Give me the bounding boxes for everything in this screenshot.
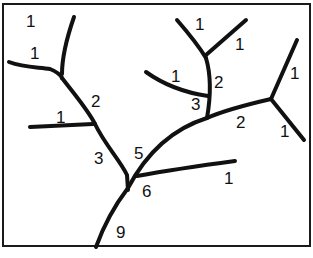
stream-order-label: 1 [224,169,233,188]
stream-order-label: 2 [236,113,245,132]
stream-order-label: 1 [26,12,35,31]
stream-order-label: 1 [280,122,289,141]
stream-order-label: 3 [94,149,103,168]
stream-order-label: 2 [91,92,100,111]
stream-order-label: 1 [235,35,244,54]
stream-order-label: 2 [214,73,223,92]
stream-order-label: 1 [290,64,299,83]
stream-segment [206,58,210,118]
stream-order-label: 9 [116,223,125,242]
stream-order-label: 5 [134,144,143,163]
stream-order-label: 6 [142,182,151,201]
stream-segment [137,161,235,176]
stream-order-label: 1 [56,108,65,127]
stream-order-label: 1 [171,67,180,86]
stream-order-label: 1 [195,15,204,34]
stream-order-label: 1 [30,44,39,63]
stream-segments [9,17,304,247]
stream-segment [9,62,62,78]
stream-order-label: 3 [191,95,200,114]
stream-segment [62,17,74,74]
stream-order-diagram: 11213561911123211 [0,0,313,258]
